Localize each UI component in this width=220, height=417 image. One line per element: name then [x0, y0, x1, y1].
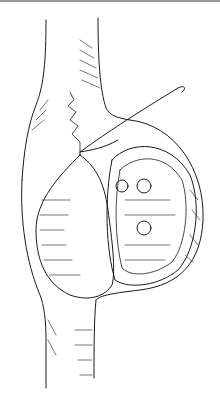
nodule-3 [137, 221, 151, 235]
left-outer-wall [22, 180, 46, 388]
suture-thread [80, 87, 185, 152]
vessel-upper-left-wall [22, 20, 46, 180]
left-chamber [36, 155, 114, 298]
vessel-upper-right-wall [98, 18, 130, 120]
vessel-lower-right-wall [94, 300, 96, 378]
surgical-illustration [0, 0, 220, 417]
suture-line [68, 92, 80, 155]
right-chamber-inner [116, 159, 186, 274]
nodule-2 [137, 179, 151, 193]
suture-thread-2 [80, 140, 118, 152]
right-chamber-outer [107, 146, 196, 285]
